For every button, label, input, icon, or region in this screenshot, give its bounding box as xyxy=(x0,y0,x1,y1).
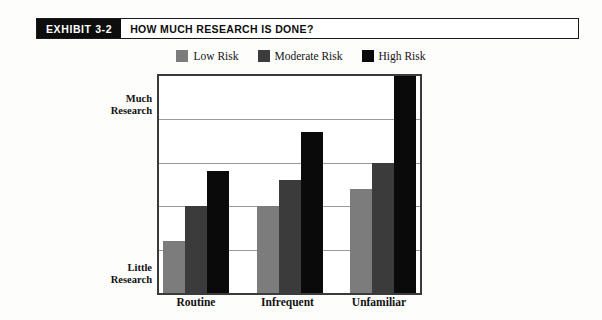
bar-low-risk-infrequent xyxy=(257,206,279,293)
bar-high-risk-infrequent xyxy=(301,132,323,293)
y-axis-label-research-top: Research xyxy=(88,105,152,117)
bar-group xyxy=(350,76,416,293)
y-axis-label-much: Much xyxy=(88,93,152,105)
chart-plot-area xyxy=(157,74,422,295)
legend-swatch-high-risk xyxy=(362,50,374,62)
bar-moderate-risk-unfamiliar xyxy=(372,163,394,293)
bar-low-risk-unfamiliar xyxy=(350,189,372,293)
bar-low-risk-routine xyxy=(163,241,185,293)
legend-label-low-risk: Low Risk xyxy=(193,50,238,62)
y-axis-label-much-research: Much Research xyxy=(88,93,152,117)
bar-moderate-risk-infrequent xyxy=(279,180,301,293)
x-axis-label-infrequent: Infrequent xyxy=(253,296,323,308)
legend-label-high-risk: High Risk xyxy=(379,50,426,62)
chart-bars xyxy=(159,76,420,293)
legend-item-moderate-risk: Moderate Risk xyxy=(258,50,343,62)
x-axis-label-routine: Routine xyxy=(161,296,231,308)
y-axis-label-research-bottom: Research xyxy=(88,274,152,286)
bar-group xyxy=(163,76,229,293)
chart-legend: Low Risk Moderate Risk High Risk xyxy=(0,50,602,62)
x-axis-labels: RoutineInfrequentUnfamiliar xyxy=(157,296,418,308)
bar-high-risk-unfamiliar xyxy=(394,76,416,293)
bar-moderate-risk-routine xyxy=(185,206,207,293)
legend-item-high-risk: High Risk xyxy=(362,50,426,62)
y-axis-label-little-research: Little Research xyxy=(88,262,152,286)
legend-swatch-low-risk xyxy=(176,50,188,62)
bar-group xyxy=(257,76,323,293)
exhibit-number-tag: EXHIBIT 3-2 xyxy=(37,19,121,38)
y-axis-label-little: Little xyxy=(88,262,152,274)
exhibit-title: HOW MUCH RESEARCH IS DONE? xyxy=(121,19,314,38)
legend-label-moderate-risk: Moderate Risk xyxy=(275,50,343,62)
legend-item-low-risk: Low Risk xyxy=(176,50,238,62)
exhibit-header-bar: EXHIBIT 3-2 HOW MUCH RESEARCH IS DONE? xyxy=(36,18,579,39)
legend-swatch-moderate-risk xyxy=(258,50,270,62)
bar-high-risk-routine xyxy=(207,171,229,293)
x-axis-label-unfamiliar: Unfamiliar xyxy=(344,296,414,308)
